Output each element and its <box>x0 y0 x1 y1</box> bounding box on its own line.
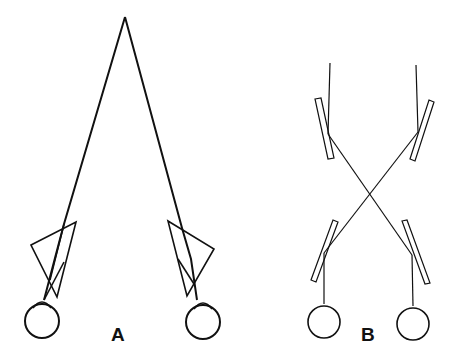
panel-b <box>308 63 434 340</box>
diagram-canvas: A B <box>0 0 461 357</box>
mirror-bottom-right[interactable] <box>402 220 430 284</box>
right-eye-icon <box>186 305 220 339</box>
mirror-top-left[interactable] <box>315 98 334 159</box>
panel-a-label: A <box>111 324 125 345</box>
left-prism <box>31 222 76 297</box>
panel-a <box>25 17 220 339</box>
left-eye-icon <box>25 304 59 338</box>
right-eye-b-icon <box>397 308 429 340</box>
mirror-top-right[interactable] <box>410 100 434 161</box>
left-eye-b-icon <box>308 306 340 338</box>
right-sightline <box>125 17 197 300</box>
panel-b-label: B <box>361 324 375 345</box>
cross-line-2 <box>324 132 418 253</box>
left-top-sightline <box>328 63 330 134</box>
right-bottom-sightline <box>412 255 413 306</box>
right-top-sightline <box>416 65 418 132</box>
